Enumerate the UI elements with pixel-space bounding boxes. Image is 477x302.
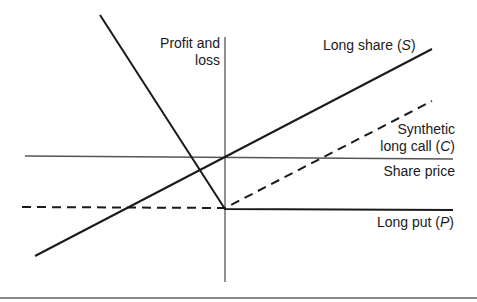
- long-put-label: Long put (P): [330, 214, 454, 231]
- synthetic-call-label-line1: Synthetic: [330, 121, 455, 138]
- synthetic-call-label-text: long call (: [380, 138, 440, 154]
- y-axis-label-line1: Profit and: [150, 35, 220, 52]
- bottom-divider: [0, 297, 477, 299]
- long-share-label-close: ): [411, 37, 416, 53]
- long-share-symbol: S: [402, 37, 411, 53]
- long-share-label-text: Long share (: [323, 37, 402, 53]
- long-put-label-close: ): [449, 214, 454, 230]
- y-axis-label: Profit and loss: [150, 35, 220, 69]
- x-axis-label: Share price: [330, 163, 455, 180]
- long-share-label: Long share (S): [323, 37, 416, 54]
- y-axis-label-line2: loss: [150, 52, 220, 69]
- long-put-symbol: P: [440, 214, 449, 230]
- long-put-label-text: Long put (: [377, 214, 440, 230]
- synthetic-long-call-label: Synthetic long call (C): [330, 121, 455, 155]
- x-axis-share-price: [25, 156, 453, 159]
- synthetic-call-label-line2: long call (C): [330, 138, 455, 155]
- synthetic-call-label-close: ): [450, 138, 455, 154]
- synthetic-call-symbol: C: [440, 138, 450, 154]
